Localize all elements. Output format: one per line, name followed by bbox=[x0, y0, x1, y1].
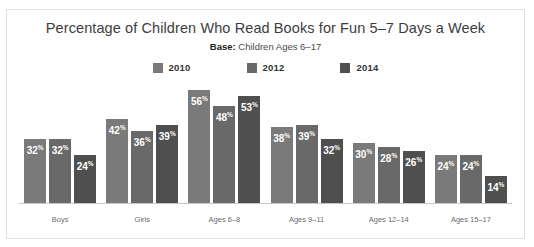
bar[interactable]: 39% bbox=[156, 125, 178, 204]
legend-swatch-2014 bbox=[340, 63, 350, 73]
bar-group: 32%32%24% bbox=[19, 82, 101, 204]
bar[interactable]: 39% bbox=[296, 125, 318, 204]
bar-column: 39% bbox=[156, 82, 178, 204]
category-label: Ages 9–11 bbox=[266, 215, 348, 224]
bar-column: 24% bbox=[460, 82, 482, 204]
bar-value-label: 39% bbox=[156, 128, 178, 142]
chart-legend: 2010 2012 2014 bbox=[7, 62, 524, 73]
plot-area: 32%32%24%42%36%39%56%48%53%38%39%32%30%2… bbox=[19, 82, 512, 230]
bar-column: 32% bbox=[49, 82, 71, 204]
category-labels: BoysGirlsAges 6–8Ages 9–11Ages 12–14Ages… bbox=[19, 215, 512, 224]
bar[interactable]: 24% bbox=[460, 155, 482, 204]
bar-value-label: 28% bbox=[378, 150, 400, 164]
bar-column: 24% bbox=[435, 82, 457, 204]
bar[interactable]: 36% bbox=[131, 131, 153, 204]
bar[interactable]: 32% bbox=[321, 139, 343, 204]
legend-item-2014: 2014 bbox=[340, 62, 378, 73]
bar[interactable]: 24% bbox=[435, 155, 457, 204]
bar-column: 38% bbox=[271, 82, 293, 204]
bar[interactable]: 32% bbox=[24, 139, 46, 204]
bar-column: 30% bbox=[353, 82, 375, 204]
bar-value-label: 38% bbox=[271, 130, 293, 144]
bar-column: 42% bbox=[106, 82, 128, 204]
bar-groups: 32%32%24%42%36%39%56%48%53%38%39%32%30%2… bbox=[19, 82, 512, 204]
x-axis-line bbox=[19, 203, 512, 204]
chart-title: Percentage of Children Who Read Books fo… bbox=[7, 20, 524, 36]
category-label: Ages 12–14 bbox=[348, 215, 430, 224]
bar-group: 38%39%32% bbox=[266, 82, 348, 204]
bar-column: 48% bbox=[213, 82, 235, 204]
bar-column: 24% bbox=[74, 82, 96, 204]
bar-value-label: 26% bbox=[403, 154, 425, 168]
bar-value-label: 32% bbox=[49, 142, 71, 156]
bar-column: 53% bbox=[238, 82, 260, 204]
bar[interactable]: 53% bbox=[238, 96, 260, 204]
category-label: Girls bbox=[101, 215, 183, 224]
bar-value-label: 30% bbox=[353, 146, 375, 160]
bar-column: 56% bbox=[188, 82, 210, 204]
bar-column: 26% bbox=[403, 82, 425, 204]
bar-column: 28% bbox=[378, 82, 400, 204]
bar-group: 24%24%14% bbox=[430, 82, 512, 204]
bar[interactable]: 48% bbox=[213, 106, 235, 204]
bar-column: 32% bbox=[321, 82, 343, 204]
legend-item-2010: 2010 bbox=[153, 62, 191, 73]
legend-label-2014: 2014 bbox=[356, 62, 378, 73]
bar-column: 32% bbox=[24, 82, 46, 204]
bar[interactable]: 56% bbox=[188, 90, 210, 204]
legend-label-2010: 2010 bbox=[169, 62, 191, 73]
chart-subtitle-text: Children Ages 6–17 bbox=[236, 41, 322, 52]
bar-group: 56%48%53% bbox=[183, 82, 265, 204]
category-label: Boys bbox=[19, 215, 101, 224]
category-label: Ages 15–17 bbox=[430, 215, 512, 224]
bar[interactable]: 32% bbox=[49, 139, 71, 204]
bar-column: 39% bbox=[296, 82, 318, 204]
legend-item-2012: 2012 bbox=[247, 62, 285, 73]
bar-group: 30%28%26% bbox=[348, 82, 430, 204]
chart-card: Percentage of Children Who Read Books fo… bbox=[6, 9, 525, 239]
legend-swatch-2012 bbox=[247, 63, 257, 73]
bar-value-label: 53% bbox=[238, 99, 260, 113]
bar-value-label: 56% bbox=[188, 93, 210, 107]
bar[interactable]: 28% bbox=[378, 147, 400, 204]
chart-subtitle-base-label: Base: bbox=[210, 41, 236, 52]
bar-value-label: 24% bbox=[74, 158, 96, 172]
bar[interactable]: 26% bbox=[403, 151, 425, 204]
bar-value-label: 14% bbox=[485, 179, 507, 193]
bar-value-label: 36% bbox=[131, 134, 153, 148]
bar-value-label: 39% bbox=[296, 128, 318, 142]
legend-label-2012: 2012 bbox=[263, 62, 285, 73]
bar-value-label: 32% bbox=[24, 142, 46, 156]
bar-value-label: 24% bbox=[460, 158, 482, 172]
bar[interactable]: 24% bbox=[74, 155, 96, 204]
bar[interactable]: 14% bbox=[485, 176, 507, 204]
category-label: Ages 6–8 bbox=[183, 215, 265, 224]
bar-value-label: 42% bbox=[106, 122, 128, 136]
bar[interactable]: 30% bbox=[353, 143, 375, 204]
bar-column: 14% bbox=[485, 82, 507, 204]
bar[interactable]: 42% bbox=[106, 119, 128, 204]
bar[interactable]: 38% bbox=[271, 127, 293, 204]
legend-swatch-2010 bbox=[153, 63, 163, 73]
bar-group: 42%36%39% bbox=[101, 82, 183, 204]
bar-column: 36% bbox=[131, 82, 153, 204]
chart-subtitle: Base: Children Ages 6–17 bbox=[7, 41, 524, 52]
bar-value-label: 32% bbox=[321, 142, 343, 156]
bar-value-label: 48% bbox=[213, 109, 235, 123]
bar-value-label: 24% bbox=[435, 158, 457, 172]
